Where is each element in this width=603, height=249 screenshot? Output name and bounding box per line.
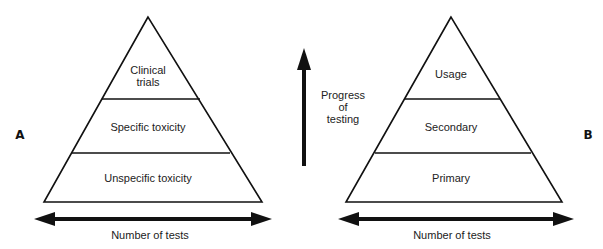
up-arrow-icon (297, 48, 311, 166)
axis-label-b: Number of tests (413, 229, 491, 241)
pyramid-diagram: Clinical trials Specific toxicity Unspec… (0, 0, 603, 249)
double-arrow-a-icon (34, 212, 272, 226)
level-a-bottom: Unspecific toxicity (104, 172, 192, 184)
level-a-top-line1: Clinical (130, 64, 165, 76)
level-a-middle: Specific toxicity (110, 121, 186, 133)
level-a-top-line2: trials (136, 76, 160, 88)
level-b-middle: Secondary (425, 121, 478, 133)
pyramid-a: Clinical trials Specific toxicity Unspec… (44, 17, 262, 202)
panel-label-a: A (15, 128, 25, 142)
progress-label-line1: Progress (321, 89, 366, 101)
pyramid-b: Usage Secondary Primary (346, 17, 562, 202)
panel-label-b: B (583, 128, 592, 142)
progress-label-line2: of (338, 101, 348, 113)
axis-label-a: Number of tests (111, 229, 189, 241)
double-arrow-b-icon (338, 212, 574, 226)
progress-label-line3: testing (327, 113, 359, 125)
level-b-top: Usage (435, 68, 467, 80)
level-b-bottom: Primary (432, 172, 470, 184)
